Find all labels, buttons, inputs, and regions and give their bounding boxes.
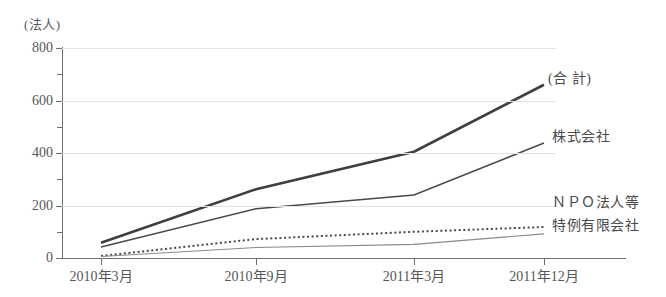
y-axis-minor-tick: [57, 232, 62, 233]
y-axis-tick-label: 800: [32, 41, 53, 55]
x-axis-tick: [544, 258, 545, 265]
y-axis-minor-tick: [57, 74, 62, 75]
gridline: [62, 101, 556, 102]
y-axis-tick-label: 0: [46, 251, 53, 265]
y-axis-tick: [56, 101, 62, 102]
x-axis-tick: [256, 258, 257, 265]
x-axis-tick-label: 2011年3月: [383, 270, 445, 284]
x-axis-tick-label: 2011年12月: [509, 270, 578, 284]
y-axis-tick: [56, 153, 62, 154]
series-label-tokurei-yugen-gaisha: 特例有限会社: [552, 219, 639, 234]
line-chart: (法人) 02004006008002010年3月2010年9月2011年3月2…: [0, 0, 666, 297]
x-axis-tick-label: 2010年9月: [225, 270, 288, 284]
gridline: [62, 153, 556, 154]
series-line: [101, 85, 544, 243]
y-axis-tick: [56, 206, 62, 207]
y-axis-tick: [56, 258, 62, 259]
x-axis-tick: [101, 258, 102, 265]
series-label-npo-houjin: ＮＰＯ法人等: [552, 196, 639, 211]
x-axis-tick-label: 2010年3月: [70, 270, 133, 284]
x-axis-tick: [414, 258, 415, 265]
series-line: [101, 227, 544, 256]
gridline: [62, 206, 556, 207]
y-axis-unit-label: (法人): [24, 14, 61, 33]
y-axis-tick-label: 200: [32, 199, 53, 213]
plot-area: 02004006008002010年3月2010年9月2011年3月2011年1…: [62, 48, 626, 258]
series-line: [101, 143, 544, 247]
y-axis-minor-tick: [57, 179, 62, 180]
x-axis-line: [62, 258, 626, 259]
y-axis-tick-label: 600: [32, 94, 53, 108]
y-axis-minor-tick: [57, 127, 62, 128]
series-label-kabushiki-gaisha: 株式会社: [552, 130, 610, 145]
series-label-total: (合 計): [548, 72, 591, 87]
series-line: [101, 234, 544, 257]
gridline: [62, 48, 556, 49]
y-axis-tick: [56, 48, 62, 49]
y-axis-tick-label: 400: [32, 146, 53, 160]
